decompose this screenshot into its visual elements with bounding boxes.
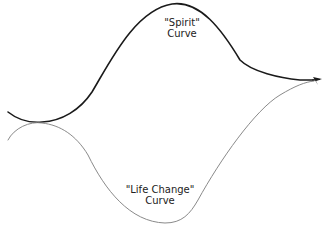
life-change-curve-label: "Life Change" Curve xyxy=(112,184,208,206)
life-change-curve-label-line2: Curve xyxy=(112,195,208,206)
curves-diagram: "Spirit" Curve "Life Change" Curve xyxy=(0,0,325,229)
life-change-curve-label-line1: "Life Change" xyxy=(112,184,208,195)
spirit-curve-label-line1: "Spirit" xyxy=(153,17,211,28)
spirit-curve-label: "Spirit" Curve xyxy=(153,17,211,39)
spirit-curve-label-line2: Curve xyxy=(153,28,211,39)
